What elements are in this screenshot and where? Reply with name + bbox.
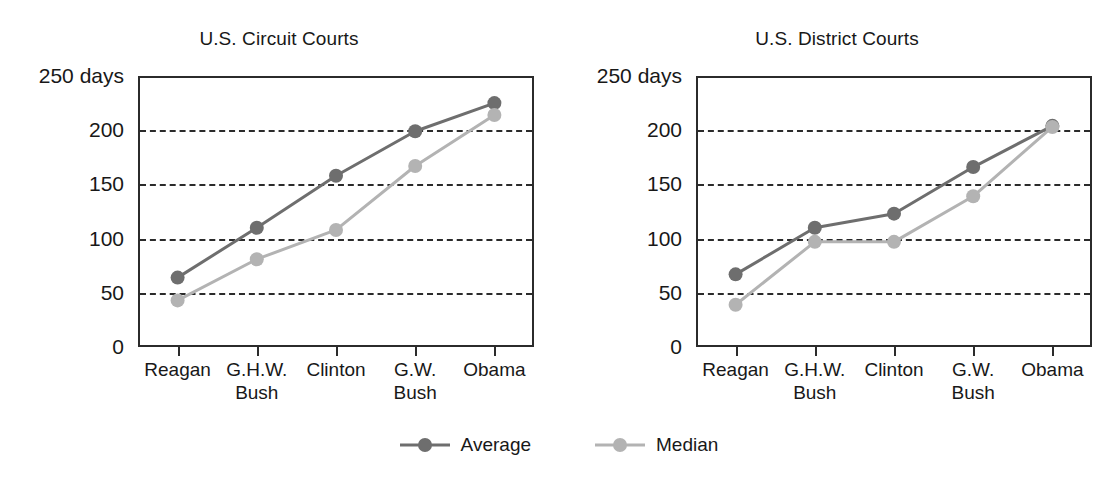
series-plot (696, 76, 1092, 347)
y-tick-label: 50 (101, 281, 124, 305)
x-tick-label: G.H.W.Bush (226, 358, 287, 404)
legend-marker-icon (398, 436, 452, 454)
x-tick-label-line: G.H.W. (784, 358, 845, 381)
data-point-average (808, 221, 822, 235)
data-point-average (729, 267, 743, 281)
chart-panel-district-courts: U.S. District Courts 050100150200250 day… (558, 0, 1116, 420)
series-plot (138, 76, 534, 347)
legend-label: Median (656, 434, 718, 456)
x-axis-labels: ReaganG.H.W.BushClintonG.W.BushObama (138, 358, 534, 420)
x-tick-label: Obama (463, 358, 525, 381)
x-tick-label-line: Obama (1021, 358, 1083, 381)
x-tick (815, 347, 817, 356)
y-axis-labels: 050100150200250 days (558, 76, 690, 347)
data-point-median (1045, 120, 1059, 134)
x-tick (415, 347, 417, 356)
y-axis-labels: 050100150200250 days (0, 76, 132, 347)
x-tick (736, 347, 738, 356)
data-point-median (887, 235, 901, 249)
x-tick (1052, 347, 1054, 356)
charts-row: U.S. Circuit Courts 050100150200250 days… (0, 0, 1116, 420)
data-point-average (887, 207, 901, 221)
x-tick-label-line: Bush (784, 381, 845, 404)
data-point-median (966, 189, 980, 203)
y-tick-label: 0 (670, 335, 682, 359)
figure-container: U.S. Circuit Courts 050100150200250 days… (0, 0, 1116, 477)
y-tick-label: 150 (89, 172, 124, 196)
x-tick (973, 347, 975, 356)
data-point-average (250, 221, 264, 235)
legend-marker-icon (593, 436, 647, 454)
x-axis-ticks (696, 347, 1092, 356)
data-point-average (329, 169, 343, 183)
x-tick-label-line: G.H.W. (226, 358, 287, 381)
x-tick (336, 347, 338, 356)
data-point-median (729, 298, 743, 312)
x-tick-label: Clinton (306, 358, 365, 381)
chart-panel-circuit-courts: U.S. Circuit Courts 050100150200250 days… (0, 0, 558, 420)
data-point-average (487, 96, 501, 110)
y-tick-label: 0 (112, 335, 124, 359)
x-tick-label-line: Clinton (864, 358, 923, 381)
data-point-average (171, 271, 185, 285)
x-tick-label-line: Reagan (144, 358, 211, 381)
x-tick-label: Reagan (702, 358, 769, 381)
y-tick-label: 100 (89, 227, 124, 251)
x-tick-label-line: Obama (463, 358, 525, 381)
legend-item-average[interactable]: Average (398, 434, 531, 456)
x-tick-label-line: Clinton (306, 358, 365, 381)
x-tick-label: G.W.Bush (952, 358, 995, 404)
data-point-median (487, 108, 501, 122)
x-tick (257, 347, 259, 356)
data-point-median (171, 293, 185, 307)
y-tick-label: 250 days (39, 64, 124, 88)
data-point-median (329, 223, 343, 237)
chart-title: U.S. District Courts (558, 28, 1116, 50)
series-line-average (736, 126, 1053, 275)
x-tick-label: G.W.Bush (394, 358, 437, 404)
x-axis-labels: ReaganG.H.W.BushClintonG.W.BushObama (696, 358, 1092, 420)
x-tick-label: Reagan (144, 358, 211, 381)
legend-item-median[interactable]: Median (593, 434, 718, 456)
y-tick-label: 100 (647, 227, 682, 251)
data-point-average (408, 124, 422, 138)
x-tick-label-line: Bush (394, 381, 437, 404)
series-line-average (178, 103, 495, 278)
x-axis-ticks (138, 347, 534, 356)
x-tick (894, 347, 896, 356)
y-tick-label: 200 (647, 118, 682, 142)
x-tick-label: Clinton (864, 358, 923, 381)
x-tick (494, 347, 496, 356)
data-point-median (250, 252, 264, 266)
y-tick-label: 250 days (597, 64, 682, 88)
y-tick-label: 50 (659, 281, 682, 305)
x-tick-label-line: Bush (952, 381, 995, 404)
y-tick-label: 150 (647, 172, 682, 196)
y-tick-label: 200 (89, 118, 124, 142)
x-tick (178, 347, 180, 356)
x-tick-label: Obama (1021, 358, 1083, 381)
x-tick-label-line: Bush (226, 381, 287, 404)
x-tick-label-line: G.W. (952, 358, 995, 381)
data-point-median (408, 159, 422, 173)
data-point-average (966, 160, 980, 174)
x-tick-label: G.H.W.Bush (784, 358, 845, 404)
x-tick-label-line: G.W. (394, 358, 437, 381)
chart-legend: AverageMedian (0, 420, 1116, 470)
legend-label: Average (461, 434, 531, 456)
chart-title: U.S. Circuit Courts (0, 28, 558, 50)
series-line-median (178, 115, 495, 300)
x-tick-label-line: Reagan (702, 358, 769, 381)
data-point-median (808, 235, 822, 249)
